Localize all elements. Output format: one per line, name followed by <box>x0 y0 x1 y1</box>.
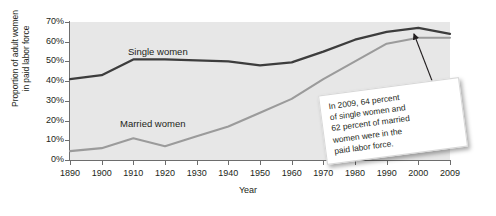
y-tick <box>65 61 69 62</box>
chart-figure: Proportion of adult women in paid labor … <box>0 0 496 216</box>
x-tick <box>418 161 419 165</box>
series-label-single-women: Single women <box>128 46 188 57</box>
y-tick-label: 10% <box>30 134 64 144</box>
x-tick-label: 2009 <box>430 168 470 178</box>
y-tick <box>65 160 69 161</box>
y-axis-title: Proportion of adult women in paid labor … <box>10 0 31 133</box>
y-tick <box>65 101 69 102</box>
x-tick <box>355 161 356 165</box>
x-tick <box>323 161 324 165</box>
y-tick <box>65 42 69 43</box>
callout-text: In 2009, 64 percent of single women and … <box>328 85 458 157</box>
y-tick-label: 50% <box>30 55 64 65</box>
x-axis-title: Year <box>0 185 496 195</box>
y-axis-line <box>69 21 70 161</box>
x-tick <box>197 161 198 165</box>
x-tick <box>133 161 134 165</box>
y-tick-label: 70% <box>30 16 64 26</box>
x-tick <box>102 161 103 165</box>
x-tick <box>292 161 293 165</box>
x-tick <box>165 161 166 165</box>
y-tick-label: 60% <box>30 36 64 46</box>
y-tick <box>65 121 69 122</box>
x-tick <box>450 161 451 165</box>
y-axis-title-line-2: in paid labor force <box>20 0 31 133</box>
x-tick <box>70 161 71 165</box>
y-tick-label: 40% <box>30 75 64 85</box>
x-tick <box>387 161 388 165</box>
y-tick <box>65 140 69 141</box>
y-tick <box>65 22 69 23</box>
y-tick-label: 20% <box>30 115 64 125</box>
x-tick <box>228 161 229 165</box>
y-tick-label: 0% <box>30 154 64 164</box>
y-tick-label: 30% <box>30 95 64 105</box>
series-label-married-women: Married women <box>120 118 185 129</box>
y-tick <box>65 81 69 82</box>
y-axis-title-line-1: Proportion of adult women <box>10 0 21 133</box>
x-tick <box>260 161 261 165</box>
